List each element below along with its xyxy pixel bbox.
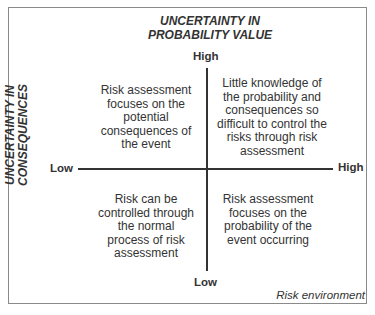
quadrant-bottom-right: Risk assessment focuses on the probabili… (218, 193, 318, 247)
vertical-high-label: High (193, 50, 219, 62)
left-axis-title: UNCERTAINTY IN CONSEQUENCES (4, 80, 30, 190)
horizontal-high-label: High (338, 161, 364, 173)
top-axis-title: UNCERTAINTY IN PROBABILITY VALUE (110, 14, 310, 42)
top-axis-title-line2: PROBABILITY VALUE (110, 28, 310, 42)
vertical-low-label: Low (194, 276, 217, 288)
quadrant-top-right: Little knowledge of the probability and … (214, 77, 330, 158)
left-axis-title-line2: CONSEQUENCES (17, 80, 30, 190)
quadrant-bottom-left: Risk can be controlled through the norma… (95, 193, 197, 261)
vertical-axis-line (206, 68, 208, 271)
quadrant-top-left: Risk assessment focuses on the potential… (97, 84, 195, 152)
horizontal-low-label: Low (50, 162, 73, 174)
horizontal-axis-line (78, 168, 333, 170)
top-axis-title-line1: UNCERTAINTY IN (110, 14, 310, 28)
footer-caption: Risk environment (276, 289, 365, 301)
